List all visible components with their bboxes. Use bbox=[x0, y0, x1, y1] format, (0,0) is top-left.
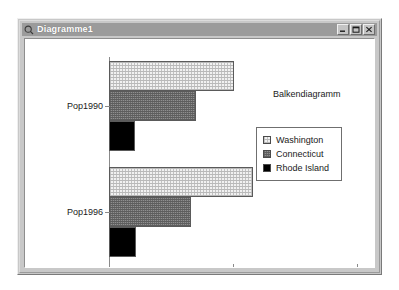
y-axis-tick bbox=[105, 212, 110, 213]
maximize-button[interactable] bbox=[350, 24, 362, 35]
x-axis-line bbox=[109, 267, 357, 268]
legend-label-connecticut: Connecticut bbox=[276, 149, 324, 159]
chart-document-icon bbox=[24, 25, 34, 35]
chart-client-area[interactable]: Balkendiagramm Pop1990Pop199605000000100… bbox=[24, 38, 375, 268]
bar-rhode-island-pop1990 bbox=[109, 121, 135, 151]
legend-item: Washington bbox=[263, 133, 336, 147]
y-axis-tick bbox=[105, 106, 110, 107]
bar-washington-pop1996 bbox=[109, 167, 253, 197]
bar-connecticut-pop1990 bbox=[109, 91, 196, 121]
x-axis-tick bbox=[109, 264, 110, 268]
legend-item: Connecticut bbox=[263, 147, 336, 161]
chart-legend: Washington Connecticut Rhode Island bbox=[256, 127, 342, 181]
chart-window: Diagramme1 Balke bbox=[17, 18, 382, 275]
bar-rhode-island-pop1996 bbox=[109, 227, 136, 257]
bar-washington-pop1990 bbox=[109, 61, 234, 91]
legend-swatch-washington bbox=[263, 136, 271, 144]
legend-swatch-connecticut bbox=[263, 150, 271, 158]
bar-connecticut-pop1996 bbox=[109, 197, 191, 227]
window-title: Diagramme1 bbox=[37, 24, 336, 35]
minimize-button[interactable] bbox=[337, 24, 349, 35]
window-titlebar[interactable]: Diagramme1 bbox=[22, 23, 377, 36]
x-axis-tick bbox=[357, 264, 358, 268]
legend-label-washington: Washington bbox=[276, 135, 323, 145]
y-axis-label-pop1996: Pop1996 bbox=[67, 207, 103, 217]
y-axis-label-pop1990: Pop1990 bbox=[67, 101, 103, 111]
legend-swatch-rhode-island bbox=[263, 164, 271, 172]
chart-title: Balkendiagramm bbox=[273, 89, 341, 99]
window-inner-frame: Diagramme1 Balke bbox=[19, 20, 380, 273]
legend-label-rhode-island: Rhode Island bbox=[276, 163, 329, 173]
x-axis-tick bbox=[233, 264, 234, 268]
bar-chart-plot: Balkendiagramm Pop1990Pop199605000000100… bbox=[25, 39, 374, 267]
legend-item: Rhode Island bbox=[263, 161, 336, 175]
close-button[interactable] bbox=[363, 24, 375, 35]
